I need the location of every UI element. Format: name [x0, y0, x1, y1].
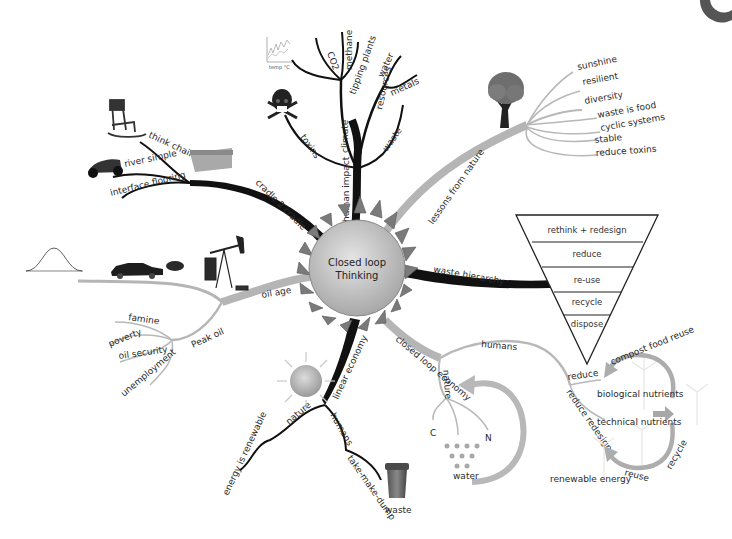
label-cle-humans: humans: [481, 339, 518, 352]
label-sunshine: sunshine: [576, 54, 618, 72]
corner-ring-icon: [700, 0, 732, 22]
pyramid-level-recycle: recycle: [572, 297, 603, 307]
center-title-line1: Closed loop: [328, 257, 386, 268]
bell-curve-icon: [26, 248, 83, 271]
label-le-humans: humans: [328, 411, 355, 448]
car-exhaust-icon: [111, 261, 184, 279]
label-cle-nature: nature: [441, 369, 454, 400]
bathtub-icon: [190, 148, 233, 172]
label-cradle-2-cradle: cradle 2 cradle: [254, 177, 309, 232]
label-closed-loop: closed loop economy: [394, 334, 474, 403]
label-nitrogen: N: [485, 433, 492, 443]
label-cle-reduce: reduce: [567, 368, 599, 382]
rocking-chair-icon: [108, 100, 146, 137]
label-le-nature: nature: [284, 400, 313, 427]
pyramid-level-reduce: reduce: [572, 249, 601, 259]
electric-car-icon: [88, 159, 123, 178]
label-diversity: diversity: [584, 89, 625, 106]
label-waste: waste: [380, 125, 404, 153]
tree-icon: [488, 72, 524, 128]
temperature-chart-icon: [267, 37, 292, 62]
pyramid-level-reuse: re-use: [574, 275, 601, 285]
label-peak-oil: Peak oil: [190, 326, 226, 350]
label-carbon: C: [430, 428, 436, 438]
waste-hierarchy-pyramid: [516, 215, 658, 364]
pyramid-level-dispose: dispose: [571, 319, 603, 329]
label-compost-food-reuse: compost food reuse: [609, 324, 696, 367]
label-famine: famine: [128, 312, 161, 326]
label-poverty: poverty: [107, 326, 143, 348]
label-water: water: [376, 51, 396, 79]
water-drops-icon: [445, 444, 480, 469]
label-technical: technical nutrients: [597, 417, 682, 427]
oil-pump-icon: [205, 236, 248, 290]
label-metals: metals: [389, 76, 421, 98]
waste-bin-icon: [385, 463, 409, 498]
label-toxins: toxins: [298, 132, 322, 160]
pyramid-level-rethink: rethink + redesign: [547, 225, 626, 235]
skull-crossbones-icon: [268, 89, 297, 118]
mind-map-canvas: human impact climate CO2 methane tipping…: [0, 0, 732, 539]
label-reduce-toxins: reduce toxins: [595, 144, 657, 158]
label-water-drops: water: [453, 471, 479, 481]
label-biological: biological nutrients: [597, 389, 684, 399]
label-methane: methane: [344, 29, 354, 70]
label-resilient: resilient: [582, 71, 620, 87]
label-renewable-energy: renewable energy: [550, 474, 632, 484]
label-temp-c: temp °C: [269, 64, 290, 71]
center-title-line2: Thinking: [335, 270, 379, 281]
label-waste-bin: waste: [385, 505, 412, 515]
label-energy-renewable: energy is renewable: [221, 410, 269, 497]
label-co2: CO2: [325, 50, 341, 71]
label-stable: stable: [594, 132, 623, 145]
label-climate: climate: [340, 119, 350, 153]
sun-icon: [277, 352, 335, 410]
